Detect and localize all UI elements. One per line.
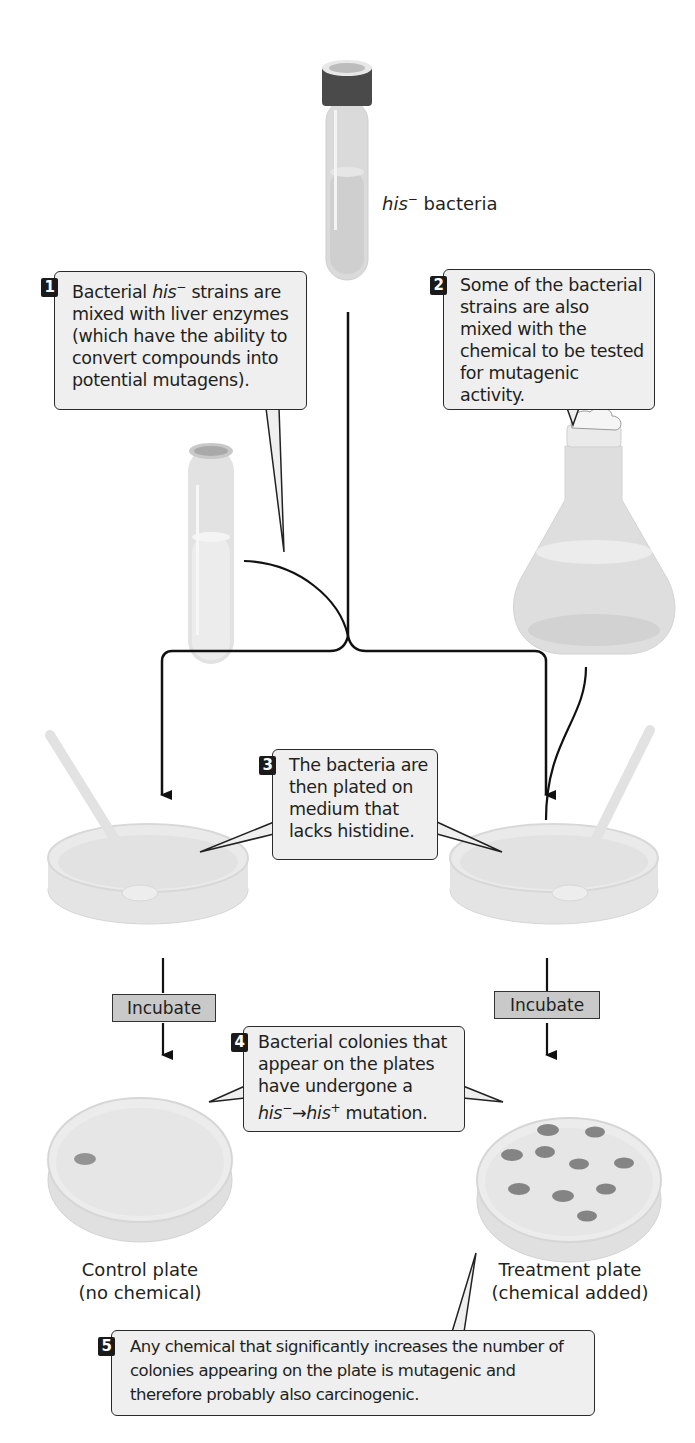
left-petri-dish-icon: [48, 735, 248, 924]
mutation-arrow: →: [292, 1103, 306, 1123]
control-plate-label: Control plate (no chemical): [60, 1258, 220, 1304]
step-2-badge: 2: [430, 276, 447, 295]
liver-enzyme-tube-icon: [188, 443, 234, 664]
bacteria-test-tube-icon: [322, 60, 372, 280]
his-bacteria-label: his− bacteria: [382, 188, 498, 215]
incubate-left-box: Incubate: [112, 994, 216, 1022]
step-4-callout: 4 Bacterial colonies that appear on the …: [243, 1026, 465, 1132]
chemical-flask-icon: [513, 408, 674, 654]
step-1-callout: 1 Bacterial his− strains are mixed with …: [54, 271, 307, 410]
treatment-plate-label: Treatment plate (chemical added): [480, 1258, 660, 1304]
step-5-callout: 5 Any chemical that significantly increa…: [111, 1330, 595, 1416]
step-2-callout: 2 Some of the bacterial strains are also…: [443, 269, 655, 410]
treatment-plate-icon: [477, 1118, 661, 1262]
step-1-badge: 1: [41, 278, 58, 297]
step-5-badge: 5: [98, 1337, 115, 1356]
incubate-right-box: Incubate: [494, 991, 600, 1019]
step-4-badge: 4: [231, 1033, 248, 1052]
step-3-callout: 3 The bacteria are then plated on medium…: [272, 749, 438, 860]
step-3-badge: 3: [259, 756, 276, 775]
colony-icon: [74, 1153, 96, 1165]
ames-test-artwork: [0, 0, 695, 1443]
control-plate-icon: [48, 1098, 232, 1242]
right-petri-dish-icon: [450, 730, 658, 924]
